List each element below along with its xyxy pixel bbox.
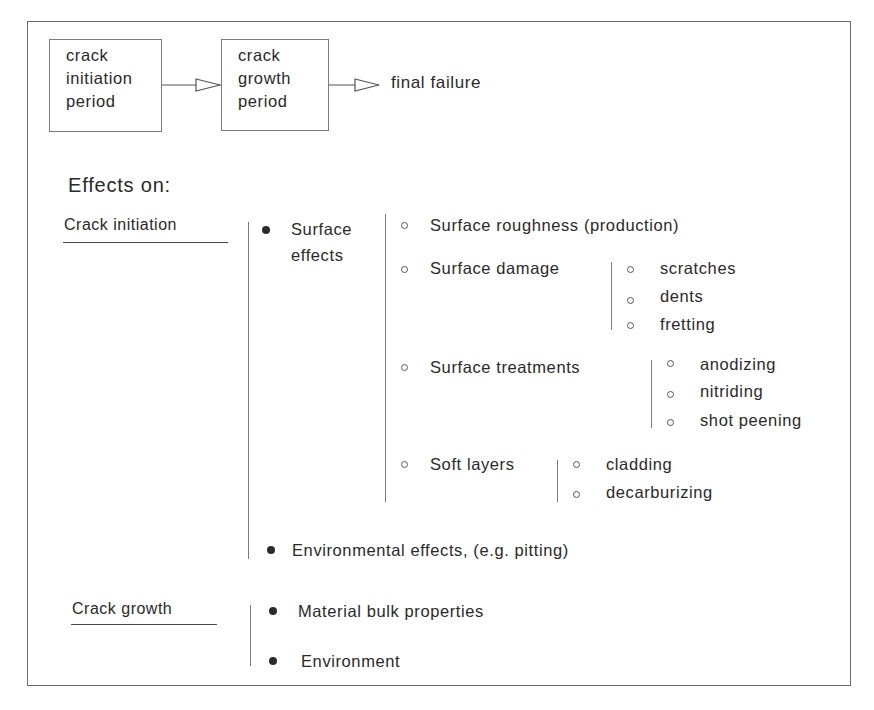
crack-growth-underline	[71, 624, 217, 625]
surface-effects-line2: effects	[291, 242, 352, 268]
environment-label: Environment	[301, 651, 400, 671]
box1-line3: period	[66, 90, 133, 113]
crack-growth-bracket	[250, 605, 251, 666]
surface-effects-label: Surface effects	[291, 216, 352, 268]
sub-item-decarburizing: decarburizing	[606, 482, 713, 502]
material-bulk-properties-label: Material bulk properties	[298, 601, 484, 621]
box1-text: crack initiation period	[66, 44, 133, 113]
surface-effects-line1: Surface	[291, 216, 352, 242]
surface-treatments-label: Surface treatments	[430, 357, 580, 377]
sub-item-dents: dents	[660, 286, 703, 306]
box2-line3: period	[238, 90, 291, 113]
crack-initiation-underline	[63, 242, 228, 243]
sub-item-nitriding: nitriding	[700, 381, 763, 401]
sub-item-scratches: scratches	[660, 258, 736, 278]
circle-bullet-icon	[667, 391, 674, 398]
environmental-effects-label: Environmental effects, (e.g. pitting)	[292, 540, 569, 560]
surface-damage-label: Surface damage	[430, 258, 559, 278]
surface-damage-bracket	[611, 262, 612, 330]
circle-bullet-icon	[573, 461, 580, 468]
bullet-icon	[267, 546, 275, 554]
box2-text: crack growth period	[238, 44, 291, 113]
sub-item-anodizing: anodizing	[700, 354, 776, 374]
sub-item-shot-peening: shot peening	[700, 410, 802, 430]
circle-bullet-icon	[627, 322, 634, 329]
bullet-icon	[269, 657, 277, 665]
surface-roughness-label: Surface roughness (production)	[430, 215, 679, 235]
box1-line1: crack	[66, 44, 133, 67]
box2-line2: growth	[238, 67, 291, 90]
circle-bullet-icon	[401, 364, 408, 371]
circle-bullet-icon	[627, 297, 634, 304]
final-failure-label: final failure	[391, 73, 481, 93]
circle-bullet-icon	[401, 222, 408, 229]
circle-bullet-icon	[667, 419, 674, 426]
circle-bullet-icon	[401, 461, 408, 468]
surface-treatments-bracket	[651, 360, 652, 428]
circle-bullet-icon	[573, 491, 580, 498]
soft-layers-label: Soft layers	[430, 454, 515, 474]
bullet-icon	[262, 226, 270, 234]
soft-layers-bracket	[557, 460, 558, 502]
arrow-icon	[329, 76, 381, 96]
circle-bullet-icon	[627, 266, 634, 273]
surface-effects-bracket	[385, 214, 386, 502]
sub-item-fretting: fretting	[660, 314, 715, 334]
bullet-icon	[269, 607, 277, 615]
crack-initiation-bracket	[248, 222, 249, 559]
arrow-icon	[162, 76, 222, 96]
crack-initiation-label: Crack initiation	[64, 215, 177, 235]
box1-line2: initiation	[66, 67, 133, 90]
box2-line1: crack	[238, 44, 291, 67]
circle-bullet-icon	[401, 266, 408, 273]
circle-bullet-icon	[667, 360, 674, 367]
crack-growth-label: Crack growth	[72, 599, 172, 619]
sub-item-cladding: cladding	[606, 454, 672, 474]
effects-heading: Effects on:	[68, 174, 171, 197]
